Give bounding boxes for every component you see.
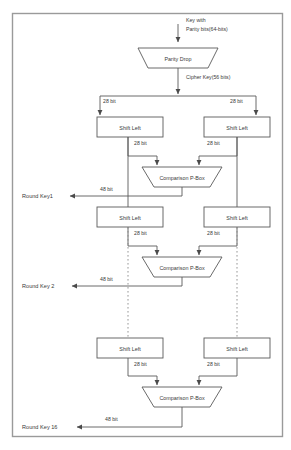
shift-left-label-r1-right: Shift Left <box>226 125 248 131</box>
r16-out-bits: 48 bit <box>105 416 118 422</box>
cipher-key-label: Cipher Key(56 bits) <box>186 74 231 80</box>
r1-right-bits: 28 bit <box>207 140 220 146</box>
comparison-pbox-label-r2: Comparison P-Box <box>159 265 205 271</box>
r16-left-bits: 28 bit <box>134 361 147 367</box>
round-key-label-16: Round Key 16 <box>22 424 57 430</box>
parity-drop-label: Parity Drop <box>165 56 192 62</box>
r1-left-bits: 28 bit <box>134 140 147 146</box>
input-label-line2: Parity bits(64-bits) <box>186 26 228 32</box>
shift-left-label-r2-right: Shift Left <box>226 215 248 221</box>
split-right-bits: 28 bit <box>230 98 243 104</box>
r16-right-bits: 28 bit <box>207 361 220 367</box>
round-key-label-2: Round Key 2 <box>22 283 54 289</box>
comparison-pbox-label-r16: Comparison P-Box <box>159 395 205 401</box>
input-label-line1: Key with <box>186 17 206 23</box>
r2-out-bits: 48 bit <box>100 276 113 282</box>
r1-out-bits: 48 bit <box>100 186 113 192</box>
r2-left-bits: 28 bit <box>134 230 147 236</box>
diagram-canvas: Key with Parity bits(64-bits) Parity Dro… <box>0 0 291 450</box>
comparison-pbox-label-r1: Comparison P-Box <box>159 175 205 181</box>
des-key-schedule-diagram: Key with Parity bits(64-bits) Parity Dro… <box>0 0 291 450</box>
shift-left-label-r2-left: Shift Left <box>119 215 141 221</box>
round-key-label-1: Round Key1 <box>22 193 53 199</box>
split-left-bits: 28 bit <box>103 98 116 104</box>
r2-right-bits: 28 bit <box>207 230 220 236</box>
shift-left-label-r16-right: Shift Left <box>226 346 248 352</box>
shift-left-label-r16-left: Shift Left <box>119 346 141 352</box>
shift-left-label-r1-left: Shift Left <box>119 125 141 131</box>
